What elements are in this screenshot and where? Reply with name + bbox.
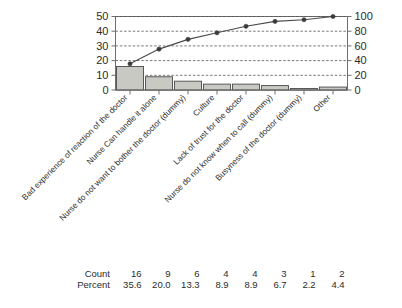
bar: [262, 86, 289, 90]
table-cell-count: 9: [165, 268, 170, 279]
gridlines: [116, 17, 348, 76]
category-label: Culture: [191, 93, 216, 118]
cumulative-point: [302, 18, 306, 22]
table-cell-percent: 4.4: [331, 279, 344, 290]
right-axis-tick-label: 0: [355, 84, 361, 96]
right-axis-tick-label: 100: [355, 10, 373, 22]
table-cell-percent: 35.6: [123, 279, 142, 290]
table-cell-count: 3: [281, 268, 286, 279]
category-label: Other: [312, 93, 333, 114]
table-row-label-percent: Percent: [77, 279, 110, 290]
cumulative-point: [157, 47, 161, 51]
cumulative-line: [130, 17, 333, 64]
table-cell-count: 4: [252, 268, 257, 279]
cumulative-point: [244, 24, 248, 28]
left-axis-tick-label: 20: [96, 54, 108, 66]
cumulative-point: [128, 62, 132, 66]
table-cell-percent: 6.7: [273, 279, 286, 290]
table-cell-percent: 8.9: [215, 279, 228, 290]
cumulative-line-group: [128, 14, 335, 66]
cumulative-point: [186, 37, 190, 41]
table-cell-percent: 13.3: [181, 279, 200, 290]
cumulative-point: [273, 19, 277, 23]
table-cell-count: 16: [131, 268, 142, 279]
cumulative-point: [215, 31, 219, 35]
chart-canvas: 01020304050 020406080100 Bad experience …: [0, 0, 402, 308]
table-values: 16964431235.620.013.38.98.96.72.24.4: [123, 268, 345, 290]
category-label: Bad experience of reaction of the doctor: [20, 93, 129, 202]
cumulative-point: [331, 14, 335, 18]
right-axis-tick-label: 80: [355, 25, 367, 37]
bar: [175, 81, 202, 90]
left-axis: 01020304050: [96, 10, 115, 96]
left-axis-tick-label: 10: [96, 69, 108, 81]
right-axis: 020406080100: [348, 10, 373, 96]
table-cell-percent: 8.9: [244, 279, 257, 290]
right-axis-tick-label: 40: [355, 54, 367, 66]
table-row-label-count: Count: [85, 268, 111, 279]
bar: [233, 84, 260, 90]
category-label: Nurse do not know when to call (dummy): [163, 93, 274, 204]
left-axis-tick-label: 30: [96, 40, 108, 52]
pareto-chart: 01020304050 020406080100 Bad experience …: [0, 0, 402, 308]
table-cell-count: 6: [194, 268, 199, 279]
bar: [204, 84, 231, 90]
table-cell-count: 1: [310, 268, 315, 279]
category-labels: Bad experience of reaction of the doctor…: [20, 93, 332, 223]
right-axis-tick-label: 20: [355, 69, 367, 81]
left-axis-tick-label: 50: [96, 10, 108, 22]
right-axis-tick-label: 60: [355, 40, 367, 52]
table-cell-percent: 2.2: [302, 279, 315, 290]
bar: [146, 77, 173, 90]
bar: [117, 66, 144, 90]
table-cell-percent: 20.0: [152, 279, 171, 290]
table-cell-count: 4: [223, 268, 228, 279]
left-axis-tick-label: 40: [96, 25, 108, 37]
left-axis-tick-label: 0: [102, 84, 108, 96]
bar-group: [117, 66, 347, 90]
table-cell-count: 2: [339, 268, 344, 279]
data-table: Count Percent 16964431235.620.013.38.98.…: [77, 268, 344, 290]
